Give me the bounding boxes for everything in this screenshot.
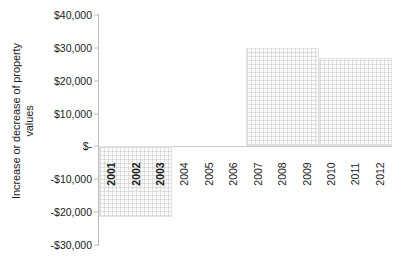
x-axis-tick-label-2005: 2005 [203,151,215,197]
y-axis-tick-label: -$10,000 [36,173,92,185]
y-axis-tick-mark [94,47,99,48]
y-axis-tick-mark [94,15,99,16]
y-axis-title-line-1: Increase or decrease of property [10,43,22,199]
y-axis-tick-label: $10,000 [36,108,92,120]
x-axis-tick-label-2004: 2004 [178,151,190,197]
y-axis-tick-mark [94,245,99,246]
y-axis-tick-mark [94,80,99,81]
x-axis-tick-label-2007: 2007 [252,151,264,197]
x-axis-tick-label-2010: 2010 [325,151,337,197]
bar-group-2001-2003 [99,146,172,217]
x-axis-tick-label-2011: 2011 [349,151,361,197]
y-axis-tick-mark [94,113,99,114]
y-axis-tick-label: $20,000 [36,75,92,87]
y-axis-tick-label: -$20,000 [36,206,92,218]
bar-group-2007-2009 [246,48,319,147]
y-axis-tick-label: $40,000 [36,9,92,21]
x-axis-tick-label-2008: 2008 [276,151,288,197]
y-axis-tick-label: $30,000 [36,42,92,54]
x-axis-tick-label-2012: 2012 [374,151,386,197]
bar-group-2010-2012 [319,58,392,146]
y-axis-tick-label: -$30,000 [36,239,92,251]
x-axis-tick-label-2009: 2009 [301,151,313,197]
y-axis-tick-labels: $40,000$30,000$20,000$10,000$--$10,000-$… [40,0,96,262]
y-axis-title-line-2: values [23,105,35,136]
property-value-change-chart: Increase or decrease of property values … [0,0,403,262]
y-axis-tick-label: $- [36,140,92,152]
x-axis-tick-label-2006: 2006 [227,151,239,197]
